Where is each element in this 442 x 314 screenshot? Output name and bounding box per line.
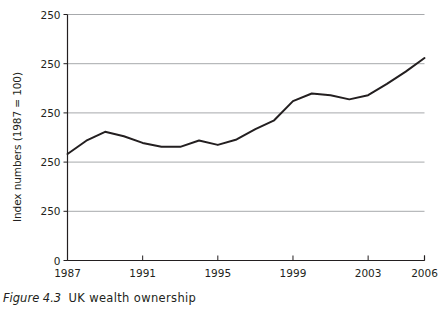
caption-title: UK wealth ownership: [68, 291, 196, 305]
y-axis-tick-label: 250: [25, 107, 61, 119]
x-axis-tick-label: 1995: [193, 267, 243, 279]
x-axis-tick-label: 2006: [400, 267, 442, 279]
x-axis-tick-label: 1987: [43, 267, 93, 279]
figure-caption: Figure 4.3 UK wealth ownership: [3, 291, 196, 306]
y-axis-tick-label: 250: [25, 205, 61, 217]
chart-area: Index numbers (1987 = 100) 2502502502502…: [0, 0, 437, 285]
caption-figure-number: Figure 4.3: [3, 291, 61, 305]
line-chart: [0, 0, 437, 285]
data-line-series-0: [68, 58, 425, 154]
y-axis-tick-label: 0: [25, 255, 61, 267]
x-axis-tick-label: 1991: [118, 267, 168, 279]
x-axis-tick-label: 1999: [268, 267, 318, 279]
y-axis-tick-label: 250: [25, 156, 61, 168]
y-axis-tick-label: 250: [25, 9, 61, 21]
y-axis-title: Index numbers (1987 = 100): [9, 17, 25, 277]
y-axis-tick-label: 250: [25, 58, 61, 70]
x-axis-tick-label: 2003: [343, 267, 393, 279]
